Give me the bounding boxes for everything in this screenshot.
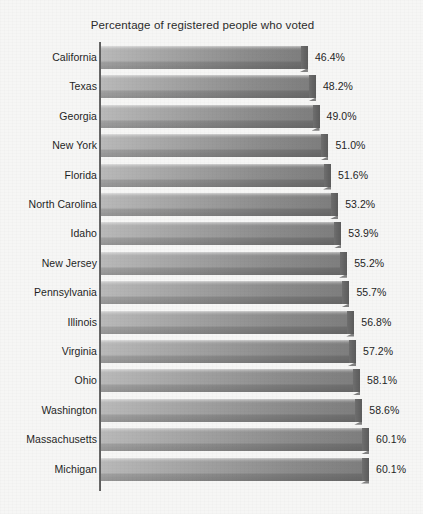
bar-face <box>101 252 341 275</box>
bar <box>101 134 328 157</box>
bar-end-face <box>342 281 349 304</box>
bar-face <box>101 164 325 187</box>
bar-value-label: 53.2% <box>345 198 375 210</box>
bar-end-face <box>301 46 308 69</box>
category-label: Illinois <box>67 316 97 328</box>
bar <box>101 428 369 451</box>
bar-row: Michigan60.1% <box>0 456 423 485</box>
bar <box>101 281 349 304</box>
category-label: New York <box>52 139 97 151</box>
bar-value-label: 55.7% <box>356 286 386 298</box>
category-label: Michigan <box>55 463 97 475</box>
bar-row: New Jersey55.2% <box>0 250 423 279</box>
bar-row: Florida51.6% <box>0 162 423 191</box>
bar-row: North Carolina53.2% <box>0 191 423 220</box>
bar-face <box>101 222 335 245</box>
bar <box>101 252 347 275</box>
bar-value-label: 49.0% <box>327 110 357 122</box>
bar-row: Georgia49.0% <box>0 103 423 132</box>
bar-row: Idaho53.9% <box>0 220 423 249</box>
bar-end-face <box>349 340 356 363</box>
bar <box>101 164 331 187</box>
bar-face <box>101 75 310 98</box>
bar-value-label: 57.2% <box>363 345 393 357</box>
bar-end-face <box>313 105 320 128</box>
category-label: Washington <box>41 404 97 416</box>
bar-face <box>101 281 343 304</box>
category-label: Massachusetts <box>26 433 97 445</box>
bar-row: Virginia57.2% <box>0 338 423 367</box>
plot-area: California46.4%Texas48.2%Georgia49.0%New… <box>0 44 423 494</box>
category-label: New Jersey <box>42 257 97 269</box>
category-label: Idaho <box>70 227 97 239</box>
bar <box>101 75 316 98</box>
bar-face <box>101 311 348 334</box>
bar-face <box>101 340 350 363</box>
bar-row: Washington58.6% <box>0 397 423 426</box>
category-label: Ohio <box>75 374 97 386</box>
bar-value-label: 51.6% <box>338 169 368 181</box>
bar-face <box>101 428 363 451</box>
bar-face <box>101 46 302 69</box>
bar-row: Texas48.2% <box>0 73 423 102</box>
bar-value-label: 55.2% <box>354 257 384 269</box>
bar <box>101 222 341 245</box>
bar <box>101 340 356 363</box>
bar-end-face <box>321 134 328 157</box>
bar-value-label: 48.2% <box>323 80 353 92</box>
bar-end-face <box>362 428 369 451</box>
category-label: Pennsylvania <box>34 286 97 298</box>
bar-value-label: 46.4% <box>315 51 345 63</box>
bar-end-face <box>334 222 341 245</box>
bar-row: Massachusetts60.1% <box>0 426 423 455</box>
bar-value-label: 51.0% <box>335 139 365 151</box>
bar-face <box>101 193 332 216</box>
bar-value-label: 60.1% <box>376 463 406 475</box>
category-label: Florida <box>65 169 97 181</box>
bar-end-face <box>331 193 338 216</box>
bar-end-face <box>340 252 347 275</box>
category-label: North Carolina <box>29 198 97 210</box>
bar-row: Ohio58.1% <box>0 367 423 396</box>
bar-end-face <box>362 458 369 481</box>
bar-row: California46.4% <box>0 44 423 73</box>
bar-face <box>101 134 322 157</box>
bar-row: Pennsylvania55.7% <box>0 279 423 308</box>
bar-value-label: 58.6% <box>369 404 399 416</box>
chart-title: Percentage of registered people who vote… <box>0 19 423 31</box>
bar-value-label: 53.9% <box>348 227 378 239</box>
bar <box>101 311 354 334</box>
bar-row: Illinois56.8% <box>0 309 423 338</box>
bar-face <box>101 399 356 422</box>
category-label: Georgia <box>59 110 97 122</box>
bar-face <box>101 105 314 128</box>
bar-value-label: 60.1% <box>376 433 406 445</box>
bar-value-label: 56.8% <box>361 316 391 328</box>
bar <box>101 193 338 216</box>
bar-chart: Percentage of registered people who vote… <box>0 0 423 514</box>
bar <box>101 46 308 69</box>
bar-value-label: 58.1% <box>367 374 397 386</box>
bar-end-face <box>355 399 362 422</box>
bar-face <box>101 458 363 481</box>
bar-end-face <box>353 369 360 392</box>
bar <box>101 105 320 128</box>
bar-end-face <box>324 164 331 187</box>
category-label: California <box>52 51 97 63</box>
category-label: Virginia <box>62 345 97 357</box>
bar-face <box>101 369 354 392</box>
bar <box>101 399 362 422</box>
bar-end-face <box>347 311 354 334</box>
bar-row: New York51.0% <box>0 132 423 161</box>
bar-end-face <box>309 75 316 98</box>
category-label: Texas <box>69 80 97 92</box>
bar <box>101 458 369 481</box>
bar <box>101 369 360 392</box>
